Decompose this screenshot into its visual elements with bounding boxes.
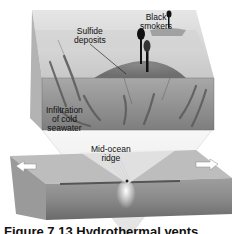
sulfide-deposits-label: Sulfide deposits	[74, 27, 106, 45]
hydrothermal-vent-diagram: Black smokers Sulfide deposits Infiltrat…	[0, 0, 244, 234]
figure-caption: Figure 7.13 Hydrothermal vents	[4, 225, 198, 234]
diagram-illustration	[0, 0, 244, 234]
mid-ocean-ridge-label: Mid-ocean ridge	[91, 145, 131, 163]
black-smokers-label: Black smokers	[140, 13, 172, 31]
infiltration-label: Infiltration of cold seawater	[46, 106, 83, 133]
